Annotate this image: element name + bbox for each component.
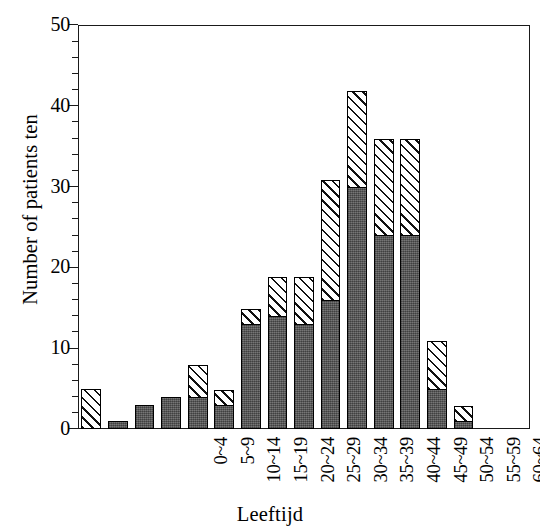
bar-segment-hatched (454, 406, 474, 422)
bar-segment-dark (108, 421, 128, 429)
bar-segment-dark (268, 316, 288, 429)
bar-group[interactable] (241, 308, 261, 429)
bar-segment-dark (400, 235, 420, 429)
bar-segment-hatched (214, 390, 234, 406)
bar-segment-dark (454, 421, 474, 429)
y-tick-label: 0 (24, 418, 70, 438)
bar-group[interactable] (374, 138, 394, 429)
bar-segment-hatched (321, 180, 341, 301)
bar-segment-hatched (241, 309, 261, 325)
bar-segment-dark (188, 397, 208, 429)
bar-group[interactable] (135, 405, 155, 429)
bar-group[interactable] (188, 364, 208, 429)
bar-segment-hatched (188, 365, 208, 397)
bar-group[interactable] (81, 389, 101, 429)
y-axis-title: Number of patients ten (19, 30, 42, 390)
bar-group[interactable] (400, 138, 420, 429)
bars-layer (78, 25, 530, 429)
bar-group[interactable] (454, 405, 474, 429)
bar-group[interactable] (347, 90, 367, 429)
bar-segment-hatched (268, 277, 288, 317)
bar-segment-hatched (294, 277, 314, 325)
bar-segment-dark (214, 405, 234, 429)
bar-group[interactable] (108, 421, 128, 429)
bar-segment-dark (347, 187, 367, 429)
bar-group[interactable] (427, 340, 447, 429)
bar-group[interactable] (268, 275, 288, 429)
bar-group[interactable] (294, 275, 314, 429)
bar-segment-dark (374, 235, 394, 429)
bar-segment-dark (135, 405, 155, 429)
bar-segment-dark (427, 389, 447, 429)
bar-group[interactable] (321, 179, 341, 429)
bar-segment-hatched (81, 389, 101, 429)
bar-segment-hatched (374, 139, 394, 236)
bar-segment-dark (241, 324, 261, 429)
bar-segment-dark (161, 397, 181, 429)
x-axis-title: Leeftijd (0, 503, 540, 526)
chart-container: 01020304050 Number of patients ten 0~45~… (0, 0, 540, 529)
bar-segment-hatched (400, 139, 420, 236)
bar-segment-dark (294, 324, 314, 429)
bar-group[interactable] (161, 397, 181, 429)
bar-group[interactable] (214, 389, 234, 429)
bar-segment-hatched (347, 91, 367, 188)
bar-segment-dark (321, 300, 341, 429)
bar-segment-hatched (427, 341, 447, 389)
